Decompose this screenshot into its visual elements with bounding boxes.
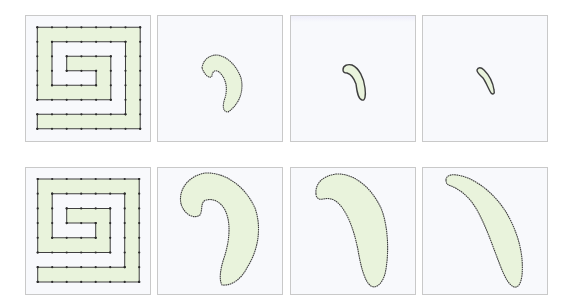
banana-shape-bottom xyxy=(446,175,522,287)
curved-shape-bottom xyxy=(316,174,388,287)
sliver-shape-top xyxy=(477,68,494,94)
comma-shape-top xyxy=(343,65,365,100)
hook-shape-bottom xyxy=(180,173,258,285)
hook-shape-top xyxy=(202,55,242,112)
shapes-layer xyxy=(0,0,570,306)
